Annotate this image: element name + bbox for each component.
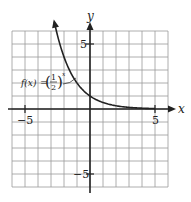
function-name: f(x) bbox=[20, 78, 37, 88]
function-curve bbox=[54, 22, 155, 109]
y-axis: y bbox=[86, 9, 94, 193]
x-axis-label: x bbox=[178, 102, 185, 116]
base-numerator: 1 bbox=[51, 73, 56, 82]
y-tick-label: 5 bbox=[80, 38, 87, 51]
exponential-graph: x y −555−5 f(x) = ( 1 2 ) x bbox=[0, 0, 191, 202]
y-axis-label: y bbox=[86, 9, 94, 23]
curve-arrow-icon bbox=[52, 20, 59, 29]
x-tick-label: 5 bbox=[152, 114, 159, 127]
base-denominator: 2 bbox=[51, 83, 56, 92]
y-axis-arrow-icon bbox=[87, 22, 94, 30]
exponent: x bbox=[62, 70, 66, 77]
left-paren: ( bbox=[45, 73, 51, 91]
x-tick-label: −5 bbox=[17, 114, 33, 127]
curve-group bbox=[52, 20, 155, 109]
x-axis-arrow-icon bbox=[168, 106, 176, 113]
y-tick-label: −5 bbox=[73, 168, 89, 181]
function-label: f(x) = ( 1 2 ) x bbox=[20, 70, 76, 92]
